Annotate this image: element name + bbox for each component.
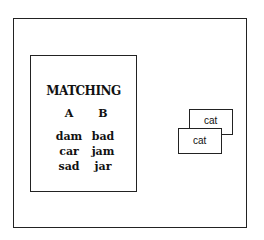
word-item: bad bbox=[83, 129, 123, 144]
worksheet-title: MATCHING bbox=[31, 84, 136, 98]
word-item: jar bbox=[83, 159, 123, 174]
card-label: cat bbox=[204, 115, 217, 126]
column-b: B bad jam jar bbox=[83, 106, 123, 174]
column-b-header: B bbox=[83, 106, 123, 121]
matching-worksheet: MATCHING A dam car sad B bad jam jar bbox=[30, 55, 137, 192]
word-item: jam bbox=[83, 144, 123, 159]
word-card-front: cat bbox=[178, 128, 222, 154]
card-label: cat bbox=[193, 135, 206, 146]
